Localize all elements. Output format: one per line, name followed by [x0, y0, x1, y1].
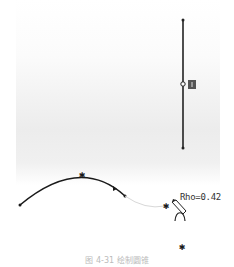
cursor-point-icon: ✱ [163, 202, 170, 211]
midpoint-marker-icon: ✱ [79, 171, 86, 180]
pencil-cursor-icon [172, 199, 186, 221]
sketch-canvas[interactable]: ✱ ✱ ✱ Rho=0.42 图 4-31 绘制圆锥 [0, 0, 234, 267]
figure-caption: 图 4-31 绘制圆锥 [0, 254, 234, 265]
vertical-line[interactable] [181, 19, 185, 150]
arc-segment[interactable]: ✱ [19, 171, 127, 207]
vertical-constraint-icon[interactable] [188, 80, 196, 89]
end-point-icon: ✱ [179, 243, 186, 252]
rho-value-label: Rho=0.42 [180, 192, 221, 202]
conic-preview-curve [125, 196, 165, 207]
sketch-geometry: ✱ ✱ ✱ [0, 0, 234, 267]
